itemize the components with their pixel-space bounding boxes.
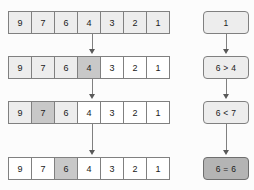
array-cell: 4 bbox=[77, 11, 101, 34]
array-cell: 2 bbox=[123, 101, 147, 124]
array-cell: 9 bbox=[8, 11, 32, 34]
array-cell: 3 bbox=[100, 11, 124, 34]
array-cell-highlighted: 6 bbox=[54, 157, 78, 180]
array-cell: 2 bbox=[123, 56, 147, 79]
table-row: 9 7 6 4 3 2 1 bbox=[8, 11, 169, 34]
binary-search-diagram: 9 7 6 4 3 2 1 9 7 6 4 3 2 1 9 7 6 4 3 2 … bbox=[0, 0, 254, 190]
array-cell: 3 bbox=[100, 101, 124, 124]
array-cell: 9 bbox=[8, 101, 32, 124]
arrow-down-icon bbox=[223, 150, 229, 155]
decision-box-step2: 6 > 4 bbox=[203, 56, 249, 79]
decision-box-step1: 1 bbox=[203, 11, 249, 34]
array-cell: 1 bbox=[146, 101, 170, 124]
table-row: 9 7 6 4 3 2 1 bbox=[8, 157, 169, 180]
array-cell: 7 bbox=[31, 11, 55, 34]
connector-box3-box4 bbox=[226, 124, 227, 152]
arrow-down-icon bbox=[223, 49, 229, 54]
array-cell: 4 bbox=[77, 157, 101, 180]
connector-row3-row4 bbox=[92, 124, 93, 152]
array-cell: 6 bbox=[54, 56, 78, 79]
decision-box-step4-result: 6 = 6 bbox=[203, 157, 249, 180]
array-cell: 9 bbox=[8, 157, 32, 180]
array-cell: 1 bbox=[146, 11, 170, 34]
array-cell: 1 bbox=[146, 157, 170, 180]
table-row: 9 7 6 4 3 2 1 bbox=[8, 101, 169, 124]
array-cell: 1 bbox=[146, 56, 170, 79]
array-cell: 7 bbox=[31, 157, 55, 180]
array-cell: 6 bbox=[54, 101, 78, 124]
array-cell: 2 bbox=[123, 11, 147, 34]
array-cell: 7 bbox=[31, 56, 55, 79]
array-cell: 6 bbox=[54, 11, 78, 34]
array-cell: 3 bbox=[100, 56, 124, 79]
array-cell: 9 bbox=[8, 56, 32, 79]
arrow-down-icon bbox=[89, 94, 95, 99]
array-cell-highlighted: 4 bbox=[77, 56, 101, 79]
array-cell: 4 bbox=[77, 101, 101, 124]
arrow-down-icon bbox=[89, 49, 95, 54]
array-cell: 2 bbox=[123, 157, 147, 180]
arrow-down-icon bbox=[89, 150, 95, 155]
table-row: 9 7 6 4 3 2 1 bbox=[8, 56, 169, 79]
array-cell: 3 bbox=[100, 157, 124, 180]
decision-box-step3: 6 < 7 bbox=[203, 101, 249, 124]
array-cell-highlighted: 7 bbox=[31, 101, 55, 124]
arrow-down-icon bbox=[223, 94, 229, 99]
